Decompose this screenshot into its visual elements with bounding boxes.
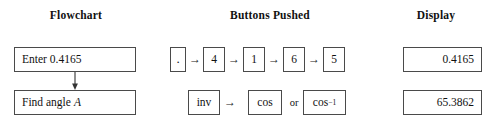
column-header-display: Display <box>385 9 487 21</box>
column-header-flowchart: Flowchart <box>0 9 152 21</box>
button-key-6[interactable]: 6 <box>283 47 305 72</box>
button-key-5[interactable]: 5 <box>323 47 345 72</box>
flowchart-step-box-1: Enter 0.4165 <box>14 47 136 72</box>
button-key-cos-inverse-base: cos <box>313 97 328 109</box>
alternative-conjunction-label: or <box>284 97 304 108</box>
arrow-right-icon-1: → <box>187 53 203 65</box>
flowchart-step-box-2: Find angleA <box>14 90 136 115</box>
display-value-box-1: 0.4165 <box>403 47 482 72</box>
arrow-right-icon-4: → <box>306 53 322 65</box>
button-key-1-label: 1 <box>251 54 257 66</box>
button-key-inv-label: inv <box>197 97 212 109</box>
button-key-cos-inverse[interactable]: cos−1 <box>303 90 346 115</box>
flowchart-step-2-label: Find angle <box>22 97 71 109</box>
button-key-1[interactable]: 1 <box>243 47 265 72</box>
flowchart-step-1-label: Enter 0.4165 <box>22 54 81 66</box>
button-key-4-label: 4 <box>211 54 217 66</box>
button-key-cos-label: cos <box>257 97 272 109</box>
column-header-buttons-pushed: Buttons Pushed <box>185 9 355 21</box>
button-key-inv[interactable]: inv <box>188 90 220 115</box>
button-key-cos[interactable]: cos <box>248 90 282 115</box>
display-value-2: 65.3862 <box>437 97 474 109</box>
button-key-5-label: 5 <box>331 54 337 66</box>
arrow-right-icon-5: → <box>222 96 238 108</box>
arrow-right-icon-3: → <box>266 53 282 65</box>
arrow-right-icon-2: → <box>226 53 242 65</box>
flowchart-down-arrow-icon <box>68 72 82 90</box>
display-value-1: 0.4165 <box>442 54 474 66</box>
button-key-4[interactable]: 4 <box>203 47 225 72</box>
button-key-decimal-point[interactable]: . <box>170 47 186 72</box>
button-key-decimal-point-label: . <box>176 56 179 63</box>
flowchart-step-2-variable: A <box>71 97 81 109</box>
button-key-6-label: 6 <box>291 54 297 66</box>
display-value-box-2: 65.3862 <box>403 90 482 115</box>
